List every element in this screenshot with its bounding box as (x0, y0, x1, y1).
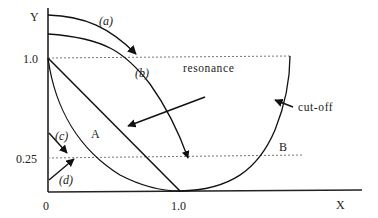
curve-a (48, 15, 136, 54)
region-b-label: B (279, 140, 287, 154)
y-tick-1: 1.0 (23, 52, 38, 66)
region-a-label: A (91, 127, 100, 141)
resonance-label: resonance (183, 62, 234, 74)
y-axis-label: Y (30, 10, 39, 24)
curve-b (48, 34, 188, 158)
x-axis-label: X (336, 198, 345, 212)
diagram-canvas: Y X 1.0 0.25 0 1.0 (a) (b) (c) (d) A B r… (0, 0, 378, 218)
cutoff-curve (180, 56, 290, 191)
cutoff-label: cut-off (298, 101, 333, 113)
reference-line-025 (48, 155, 302, 158)
y-tick-025: 0.25 (16, 152, 37, 166)
x-axis (48, 190, 362, 192)
curve-a-label: (a) (99, 14, 113, 28)
reference-line-1 (48, 56, 292, 58)
curve-d-label: (d) (59, 173, 73, 187)
x-tick-1: 1.0 (171, 199, 186, 213)
resonance-arrow (128, 97, 205, 126)
curve-c-label: (c) (55, 129, 68, 143)
x-tick-0: 0 (43, 199, 49, 213)
axes (48, 8, 362, 192)
curve-b-label: (b) (135, 66, 149, 80)
